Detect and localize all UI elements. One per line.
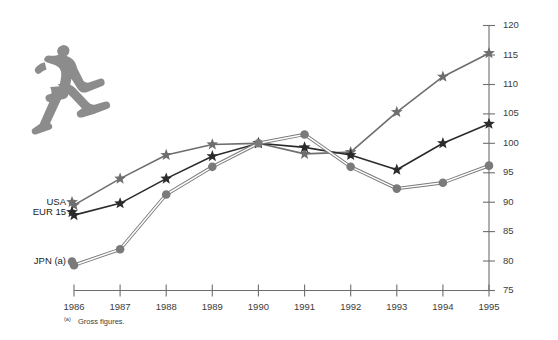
y-axis: 75 80 85 90 95 100 105 110 115 120 xyxy=(483,19,519,295)
x-tick-label-1989: 1989 xyxy=(202,301,223,312)
y-tick-label-95: 95 xyxy=(503,166,514,177)
x-tick-label-1995: 1995 xyxy=(478,301,499,312)
running-man-illustration xyxy=(32,45,111,135)
series-legend-inline: USA EUR 15 JPN (a) xyxy=(33,196,67,266)
legend-marker-jpn xyxy=(68,257,77,266)
data-point-usa-1989 xyxy=(206,138,218,149)
x-tick-label-1986: 1986 xyxy=(63,301,84,312)
x-tick-label-1990: 1990 xyxy=(248,301,269,312)
footnote: (a) Gross figures. xyxy=(64,316,125,326)
y-tick-label-100: 100 xyxy=(503,137,519,148)
data-point-eur-15-1988 xyxy=(160,172,172,183)
data-point-jpn-1995 xyxy=(485,161,494,170)
series-line-inner-jpn xyxy=(74,134,489,265)
data-point-usa-1988 xyxy=(160,149,172,160)
series-layer xyxy=(66,47,495,270)
series-line-outer-jpn xyxy=(74,134,489,265)
data-point-jpn-1993 xyxy=(392,184,401,193)
series-line-usa xyxy=(74,53,489,205)
x-tick-label-1992: 1992 xyxy=(340,301,361,312)
data-point-jpn-1988 xyxy=(162,190,171,199)
y-tick-label-75: 75 xyxy=(503,284,514,295)
data-point-usa-1987 xyxy=(114,172,126,183)
series-label-eur15: EUR 15 xyxy=(33,206,66,217)
data-point-jpn-1991 xyxy=(300,130,309,139)
y-tick-label-90: 90 xyxy=(503,196,514,207)
data-point-jpn-1987 xyxy=(116,245,125,254)
y-tick-label-105: 105 xyxy=(503,107,519,118)
y-tick-label-80: 80 xyxy=(503,255,514,266)
footnote-text: Gross figures. xyxy=(78,317,125,326)
y-tick-label-120: 120 xyxy=(503,19,519,30)
footnote-mark: (a) xyxy=(64,316,71,322)
x-tick-label-1991: 1991 xyxy=(294,301,315,312)
data-point-jpn-1994 xyxy=(439,178,448,187)
x-tick-label-1987: 1987 xyxy=(110,301,131,312)
data-point-eur-15-1993 xyxy=(391,164,403,175)
x-tick-label-1993: 1993 xyxy=(386,301,407,312)
data-point-eur-15-1994 xyxy=(437,137,449,148)
data-point-eur-15-1989 xyxy=(206,150,218,161)
y-tick-label-115: 115 xyxy=(503,49,518,60)
x-tick-label-1994: 1994 xyxy=(432,301,453,312)
x-axis: 1986 1987 1988 1989 1990 1991 1992 1993 … xyxy=(63,285,499,313)
data-point-jpn-1989 xyxy=(208,163,217,172)
line-chart: 75 80 85 90 95 100 105 110 115 120 xyxy=(0,0,558,340)
y-tick-label-110: 110 xyxy=(503,78,518,89)
data-point-eur-15-1987 xyxy=(114,197,126,208)
chart-container: 75 80 85 90 95 100 105 110 115 120 xyxy=(0,0,558,340)
y-tick-label-85: 85 xyxy=(503,225,514,236)
x-tick-label-1988: 1988 xyxy=(156,301,177,312)
data-point-jpn-1992 xyxy=(346,163,355,172)
series-eur-15 xyxy=(68,118,495,221)
data-point-jpn-1990 xyxy=(254,139,263,148)
series-label-jpn: JPN (a) xyxy=(34,255,66,266)
